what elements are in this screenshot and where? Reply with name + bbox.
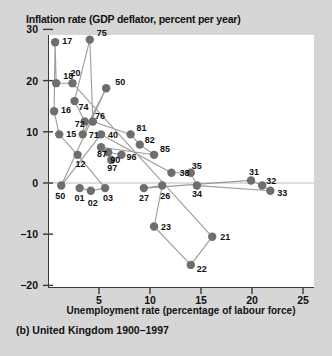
point-label-76: 76 [95,112,105,121]
point-label-96: 96 [126,153,136,162]
point-label-87: 87 [97,150,107,159]
point-label-38: 38 [179,169,189,178]
point-label-33: 33 [277,189,287,198]
chart-root: Inflation rate (GDP deflator, percent pe… [0,0,332,356]
point-label-32: 32 [266,177,276,186]
point-label-20: 20 [70,69,80,78]
y-tick-0: 0 [4,177,38,189]
point-label-26: 26 [160,192,170,201]
point-label-02: 02 [88,199,98,208]
point-label-22: 22 [197,265,207,274]
y-tick--10: −10 [4,228,38,240]
point-label-97: 97 [107,164,117,173]
y-tick-20: 20 [4,75,38,87]
point-label-74: 74 [79,103,89,112]
point-label-75: 75 [97,29,107,38]
point-label-03: 03 [103,194,113,203]
point-label-85: 85 [160,145,170,154]
point-label-21: 21 [220,233,230,242]
point-label-34: 34 [192,190,202,199]
x-axis-title: Unemployment rate (percentage of labour … [50,305,312,316]
point-label-81: 81 [137,124,147,133]
y-tick--20: −20 [4,279,38,291]
y-tick-10: 10 [4,126,38,138]
point-label-17: 17 [62,37,72,46]
point-label-31: 31 [249,168,259,177]
point-label-35: 35 [192,162,202,171]
point-label-82: 82 [145,136,155,145]
point-label-16: 16 [61,106,71,115]
point-label-72: 72 [75,120,85,129]
point-label-50: 50 [115,78,125,87]
point-label-50b: 50 [55,192,65,201]
point-label-15: 15 [66,130,76,139]
figure-caption: (b) United Kingdom 1900–1997 [16,324,169,336]
point-label-40: 40 [108,131,118,140]
point-label-71: 71 [89,131,99,140]
point-label-23: 23 [161,223,171,232]
point-label-01: 01 [75,194,85,203]
point-label-12: 12 [76,160,86,169]
chart-canvas [0,0,332,356]
point-label-27: 27 [139,194,149,203]
y-tick-30: 30 [4,23,38,35]
